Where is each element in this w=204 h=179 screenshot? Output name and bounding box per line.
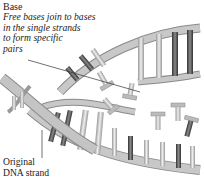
- strand-label-line: Original: [3, 157, 49, 168]
- base-desc-line: pairs: [3, 44, 113, 55]
- crossing-strand: [2, 78, 95, 150]
- base-leader-line: [28, 60, 140, 92]
- original-strand-label: Original DNA strand: [3, 157, 49, 178]
- base-label-description: Free bases join to bases in the single s…: [3, 12, 113, 54]
- dna-replication-figure: Base Free bases join to bases in the sin…: [0, 0, 204, 179]
- lower-strand: [30, 102, 200, 170]
- base-desc-line: Free bases join to bases: [3, 12, 113, 23]
- base-desc-line: to form specific: [3, 33, 113, 44]
- strand-label-line: DNA strand: [3, 168, 49, 179]
